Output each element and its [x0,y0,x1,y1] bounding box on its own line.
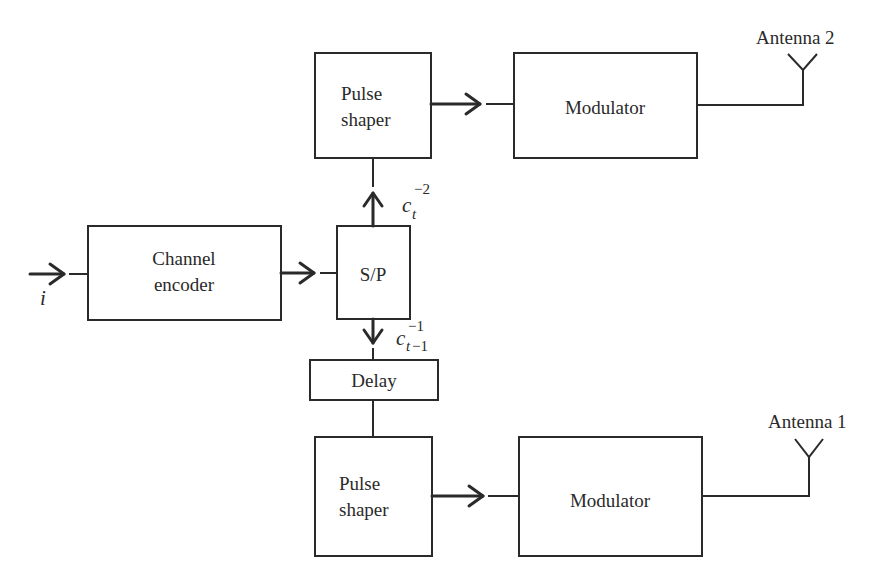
channel-encoder-label-1: Channel [152,248,215,269]
block-diagram: i Channel encoder S/P c t −2 Pulse shape… [0,0,882,569]
channel-encoder-block [88,226,281,320]
svg-text:c: c [396,326,406,350]
pulse-shaper-top-block [315,53,431,158]
antenna-1-icon [702,439,823,496]
sp-to-delay-arrow [364,319,382,360]
svg-text:t: t [406,338,411,354]
antenna-2-icon [697,54,817,105]
svg-text:−1: −1 [408,318,424,334]
encoder-to-sp-arrow [281,263,337,283]
pulse-shaper-top-label-2: shaper [341,109,391,130]
svg-text:−1: −1 [412,338,428,354]
antenna-1-label: Antenna 1 [768,411,847,432]
signal-label-lower: c t −1 −1 [396,318,428,354]
modulator-bottom-label: Modulator [570,490,651,511]
pulse-shaper-bottom-label-2: shaper [339,499,389,520]
input-arrow [30,264,88,284]
pulse-shaper-top-label-1: Pulse [341,83,382,104]
sp-to-pulse-top-arrow [364,158,382,226]
pulse-bottom-to-modulator-arrow [432,486,519,506]
sp-label: S/P [360,264,386,285]
svg-text:c: c [402,193,412,217]
antenna-2-label: Antenna 2 [756,27,835,48]
pulse-top-to-modulator-arrow [431,94,514,114]
modulator-top-label: Modulator [565,97,646,118]
pulse-shaper-bottom-block [315,437,432,556]
svg-text:t: t [412,206,417,222]
signal-label-upper: c t −2 [402,181,430,222]
channel-encoder-label-2: encoder [154,274,215,295]
delay-label: Delay [351,370,397,391]
input-symbol: i [40,286,46,310]
pulse-shaper-bottom-label-1: Pulse [339,473,380,494]
svg-text:−2: −2 [414,181,430,197]
